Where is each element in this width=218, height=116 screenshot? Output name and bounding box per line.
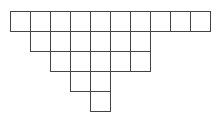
diagram-cell — [30, 31, 51, 52]
diagram-cell — [70, 71, 91, 92]
diagram-cell — [90, 31, 111, 52]
diagram-cell — [90, 91, 111, 112]
diagram-cell — [70, 11, 91, 32]
diagram-cell — [190, 11, 211, 32]
diagram-cell — [130, 11, 151, 32]
diagram-cell — [110, 31, 131, 52]
diagram-cell — [110, 11, 131, 32]
diagram-cell — [70, 51, 91, 72]
diagram-cell — [50, 51, 71, 72]
diagram-cell — [50, 11, 71, 32]
diagram-cell — [90, 11, 111, 32]
skew-young-diagram — [0, 0, 218, 116]
diagram-cell — [130, 31, 151, 52]
diagram-cell — [110, 51, 131, 72]
diagram-cell — [90, 71, 111, 92]
diagram-cell — [50, 31, 71, 52]
diagram-cell — [170, 11, 191, 32]
diagram-cell — [150, 11, 171, 32]
diagram-cell — [130, 51, 151, 72]
diagram-cell — [30, 11, 51, 32]
diagram-cell — [70, 31, 91, 52]
diagram-cell — [10, 11, 31, 32]
diagram-cell — [90, 51, 111, 72]
